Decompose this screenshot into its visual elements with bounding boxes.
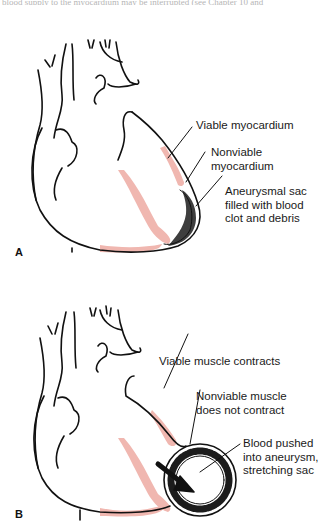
label-line: clot and debris xyxy=(225,212,307,226)
label-nonviable-myocardium: Nonviable myocardium xyxy=(211,146,274,173)
label-viable-muscle-contracts: Viable muscle contracts xyxy=(159,355,280,369)
label-line: Aneurysmal sac xyxy=(225,185,307,199)
label-line: Nonviable muscle xyxy=(196,390,287,404)
label-line: Blood pushed xyxy=(243,437,318,451)
label-viable-myocardium: Viable myocardium xyxy=(196,119,294,133)
label-line: stretching sac xyxy=(243,464,318,478)
panel-letter-a: A xyxy=(15,246,23,258)
label-line: filled with blood xyxy=(225,199,307,213)
heart-panel-a xyxy=(32,40,222,253)
label-aneurysmal-sac: Aneurysmal sac filled with blood clot an… xyxy=(225,185,307,226)
label-line: into aneurysm, xyxy=(243,451,318,465)
label-line: myocardium xyxy=(211,160,274,174)
label-line: Nonviable xyxy=(211,146,274,160)
panel-letter-b: B xyxy=(15,508,23,520)
label-nonviable-muscle: Nonviable muscle does not contract xyxy=(196,390,287,417)
label-line: does not contract xyxy=(196,404,287,418)
label-blood-pushed: Blood pushed into aneurysm, stretching s… xyxy=(243,437,318,478)
